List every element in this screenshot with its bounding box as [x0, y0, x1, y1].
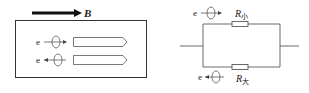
resistor-small	[232, 22, 248, 27]
electron-bottom-right: e	[198, 71, 224, 83]
resistor-large-label: R大	[235, 73, 249, 86]
electron-label: e	[198, 72, 202, 82]
field-label: B	[83, 7, 91, 19]
arrow-right-icon	[218, 11, 222, 15]
magnetic-field-arrow	[32, 9, 82, 17]
arrow-left-icon	[44, 58, 48, 62]
field-region-box	[16, 21, 147, 78]
electron-label: e	[193, 8, 197, 18]
electron-top-right: e	[193, 7, 222, 19]
conductor-plate-bottom	[74, 56, 128, 65]
arrow-right-icon	[63, 40, 67, 44]
resistor-small-label: R小	[234, 8, 248, 21]
electron-top-left: e	[36, 36, 67, 48]
right-figure: R小 R大 e e	[180, 7, 299, 86]
electron-label: e	[36, 55, 40, 65]
left-figure: B e e	[16, 7, 147, 78]
arrow-left-icon	[205, 75, 209, 79]
diagram-canvas: B e e R小	[0, 0, 309, 93]
conductor-plate-top	[74, 38, 128, 47]
electron-bottom-left: e	[36, 54, 66, 66]
electron-label: e	[36, 37, 40, 47]
resistor-large	[232, 65, 248, 70]
